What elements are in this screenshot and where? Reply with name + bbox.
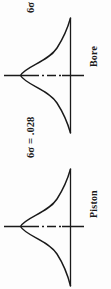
distribution-figure: 6σ = .030 Bore 6σ = .028 Piston bbox=[0, 0, 111, 289]
piston-name-label: Piston bbox=[88, 190, 99, 218]
bore-curve-svg bbox=[0, 0, 111, 144]
distribution-piston: 6σ = .028 Piston bbox=[0, 145, 111, 289]
bore-name-label: Bore bbox=[88, 46, 99, 67]
piston-sigma-label: 6σ = .028 bbox=[25, 117, 36, 158]
distribution-bore: 6σ = .030 Bore bbox=[0, 0, 111, 144]
bore-sigma-label: 6σ = .030 bbox=[25, 0, 36, 13]
